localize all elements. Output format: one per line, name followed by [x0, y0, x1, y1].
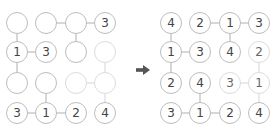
grid-cell: 4: [94, 102, 116, 124]
grid-cell: 4: [160, 12, 182, 34]
grid-cell: [65, 41, 87, 63]
grid-cell: 1: [248, 72, 270, 94]
grid-cell: 3: [248, 12, 270, 34]
grid-cell: 1: [189, 102, 211, 124]
grid-cell: 1: [35, 102, 57, 124]
grid-cell: 2: [248, 41, 270, 63]
grid-cell: 1: [6, 41, 28, 63]
solution-grid: 4213134224313124: [154, 0, 276, 132]
grid-cell: [94, 72, 116, 94]
grid-cell: [35, 12, 57, 34]
grid-cell: 2: [160, 72, 182, 94]
grid-cell: 4: [219, 41, 241, 63]
grid-cell: [65, 12, 87, 34]
grid-cell: 3: [160, 102, 182, 124]
grid-cell: 1: [219, 12, 241, 34]
grid-cell: 2: [219, 102, 241, 124]
grid-cell: 1: [160, 41, 182, 63]
grid-cell: 3: [219, 72, 241, 94]
grid-cell: [6, 12, 28, 34]
grid-cell: 4: [248, 102, 270, 124]
grid-cell: 4: [189, 72, 211, 94]
grid-cell: 3: [189, 41, 211, 63]
right-arrow-icon: [136, 60, 150, 79]
grid-cell: [6, 72, 28, 94]
grid-cell: [65, 72, 87, 94]
grid-cell: 3: [35, 41, 57, 63]
puzzle-grid: 3133124: [0, 0, 130, 132]
grid-cell: 3: [6, 102, 28, 124]
grid-cell: [35, 72, 57, 94]
grid-cell: 2: [65, 102, 87, 124]
grid-cell: 2: [189, 12, 211, 34]
grid-cell: [94, 41, 116, 63]
grid-cell: 3: [94, 12, 116, 34]
